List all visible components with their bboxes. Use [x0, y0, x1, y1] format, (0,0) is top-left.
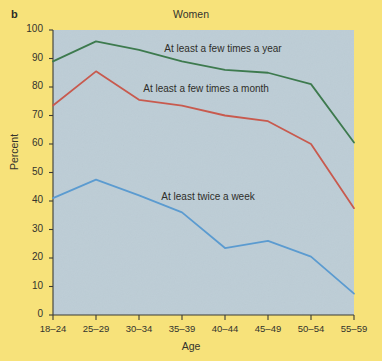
x-tick-label: 55–59: [332, 323, 376, 334]
series-label-1: At least a few times a month: [143, 83, 269, 94]
y-tick-label: 70: [13, 109, 43, 120]
series-label-0: At least a few times a year: [164, 43, 281, 54]
series-label-2: At least twice a week: [161, 191, 254, 202]
x-tick-label: 45–49: [246, 323, 290, 334]
figure-panel: b Women Percent Age 01020304050607080901…: [0, 0, 382, 361]
y-tick-label: 50: [13, 166, 43, 177]
x-axis-ticks: [53, 315, 354, 320]
y-tick-label: 0: [13, 308, 43, 319]
x-tick-label: 35–39: [160, 323, 204, 334]
line-chart-plot: [0, 0, 382, 361]
y-tick-label: 60: [13, 137, 43, 148]
x-tick-label: 18–24: [31, 323, 75, 334]
y-tick-label: 10: [13, 280, 43, 291]
y-axis-ticks: [49, 30, 53, 315]
x-tick-label: 50–54: [289, 323, 333, 334]
y-tick-label: 90: [13, 52, 43, 63]
x-tick-label: 25–29: [74, 323, 118, 334]
x-tick-label: 40–44: [203, 323, 247, 334]
y-tick-label: 30: [13, 223, 43, 234]
y-tick-label: 20: [13, 251, 43, 262]
y-tick-label: 40: [13, 194, 43, 205]
y-tick-label: 100: [13, 23, 43, 34]
x-tick-label: 30–34: [117, 323, 161, 334]
y-tick-label: 80: [13, 80, 43, 91]
